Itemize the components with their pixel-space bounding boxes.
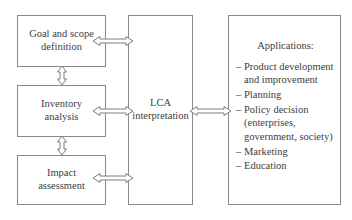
application-item-line1: Product development <box>244 61 334 72</box>
arrow-inventory-analysis-to-impact-assessment-icon <box>56 136 68 155</box>
arrow-goal-scope-to-inventory-analysis-icon <box>56 66 68 85</box>
bullet-dash-icon: – <box>236 103 241 117</box>
applications-title: Applications: <box>236 40 335 53</box>
application-item-line2: and improvement <box>244 74 318 85</box>
stage-label-inventory-analysis: Inventory analysis <box>37 98 86 124</box>
applications-content: Applications: – Product development and … <box>229 16 340 173</box>
lca-interpretation-line1: LCA <box>150 97 171 108</box>
stage-label-impact-assessment: Impact assessment <box>34 167 89 193</box>
lca-interpretation-box: LCA interpretation <box>128 15 193 205</box>
application-item-line1: Marketing <box>244 146 288 157</box>
arrow-lca-interpretation-to-applications-icon <box>190 105 231 117</box>
application-item-line1: Education <box>244 160 287 171</box>
application-item-line2: (enterprises, <box>244 117 296 128</box>
lca-framework-diagram: Goal and scope definition Inventory anal… <box>0 0 352 220</box>
application-item-education: – Education <box>236 159 335 173</box>
bullet-dash-icon: – <box>236 60 241 74</box>
lca-interpretation-label: LCA interpretation <box>132 97 189 123</box>
bullet-dash-icon: – <box>236 145 241 159</box>
arrow-goal-scope-to-lca-interpretation-icon <box>93 35 133 47</box>
stage-label-line1: Inventory <box>41 98 82 109</box>
stage-label-line2: analysis <box>45 111 79 122</box>
bullet-dash-icon: – <box>236 88 241 102</box>
application-item-line1: Planning <box>244 89 281 100</box>
lca-interpretation-line2: interpretation <box>132 110 189 121</box>
application-item-line1: Policy decision <box>244 104 308 115</box>
applications-list: – Product development and improvement – … <box>236 60 335 173</box>
stage-label-line1: Goal and scope <box>29 28 94 39</box>
arrow-impact-assessment-to-lca-interpretation-icon <box>93 172 133 184</box>
application-item-planning: – Planning <box>236 88 335 102</box>
application-item-policy-decision: – Policy decision (enterprises, governme… <box>236 103 335 144</box>
stage-label-line1: Impact <box>47 167 76 178</box>
application-item-product-development: – Product development and improvement <box>236 60 335 87</box>
application-item-marketing: – Marketing <box>236 145 335 159</box>
stage-label-line2: assessment <box>38 180 85 191</box>
applications-panel: Applications: – Product development and … <box>228 15 341 205</box>
application-item-line3: government, society) <box>244 131 333 142</box>
bullet-dash-icon: – <box>236 159 241 173</box>
arrow-inventory-analysis-to-lca-interpretation-icon <box>93 105 133 117</box>
stage-label-goal-and-scope-definition: Goal and scope definition <box>25 28 98 54</box>
stage-label-line2: definition <box>41 41 82 52</box>
